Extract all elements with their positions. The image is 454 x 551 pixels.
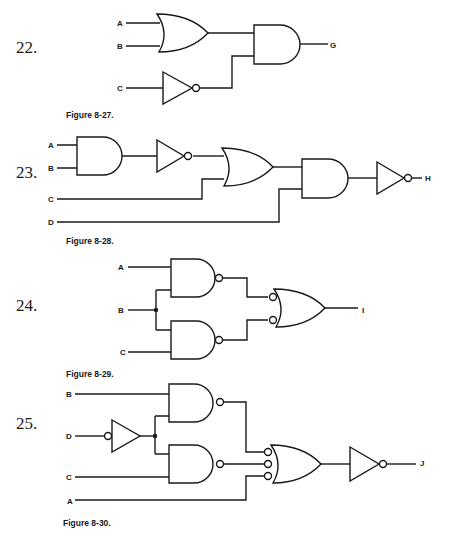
junction-dot-icon (153, 434, 157, 438)
problem-number: 23. (16, 163, 37, 182)
circuit-25: 25. B D C A J Figure 8-30. (16, 384, 424, 528)
circuit-22: 22. A B C G Figure 8-27. (16, 14, 336, 120)
inversion-bubble-icon (270, 294, 277, 301)
wire (126, 23, 160, 46)
or-gate-icon (157, 14, 208, 52)
inversion-bubble-icon (216, 337, 223, 344)
output-label-j: J (420, 459, 424, 468)
circuit-24: 24. A B C I Figure 8-29. (16, 259, 364, 379)
input-label-c: C (48, 195, 54, 204)
input-label-d: D (66, 432, 72, 441)
input-label-b: B (118, 306, 124, 315)
inversion-bubble-icon (265, 461, 272, 468)
input-label-b: B (117, 42, 123, 51)
output-label-g: G (330, 41, 336, 50)
input-label-a: A (117, 19, 123, 28)
and-gate-icon (254, 25, 300, 64)
input-label-c: C (66, 473, 72, 482)
input-label-d: D (48, 218, 54, 227)
wire (57, 179, 224, 199)
circuit-23: 23. A B C D H Figure 8-28. (16, 137, 431, 246)
output-label-i: I (362, 306, 364, 315)
figure-caption: Figure 8-28. (66, 236, 114, 246)
wire (224, 402, 264, 452)
inversion-bubble-icon (265, 449, 272, 456)
figure-caption: Figure 8-27. (66, 110, 114, 120)
buffer-gate-icon (112, 420, 140, 452)
problem-number: 25. (16, 414, 37, 433)
inversion-bubble-icon (270, 317, 277, 324)
problem-number: 24. (16, 296, 37, 315)
wire (223, 320, 268, 340)
input-label-b: B (48, 164, 54, 173)
input-label-a: A (118, 263, 124, 272)
wire (57, 189, 302, 222)
and-gate-icon (302, 159, 348, 198)
nand-gate-icon (171, 321, 215, 359)
wire (57, 145, 77, 168)
wire (223, 278, 268, 297)
input-label-b: B (66, 390, 72, 399)
inversion-bubble-icon (217, 461, 224, 468)
problem-number: 22. (16, 38, 37, 57)
not-gate-icon (163, 72, 192, 104)
output-label-h: H (425, 174, 431, 183)
nand-gate-icon (171, 259, 215, 297)
inversion-bubble-icon (193, 85, 200, 92)
nand-gate-icon (169, 384, 213, 422)
input-label-c: C (120, 348, 126, 357)
figure-caption: Figure 8-30. (63, 518, 111, 528)
input-label-a: A (48, 141, 54, 150)
inversion-bubble-icon (105, 433, 112, 440)
wire (156, 290, 171, 330)
logic-circuit-worksheet: 22. A B C G Figure 8-27. 23. A B C D H (0, 0, 454, 551)
inversion-bubble-icon (185, 153, 192, 160)
figure-caption: Figure 8-29. (66, 369, 114, 379)
not-gate-icon (157, 140, 184, 172)
input-label-a: A (67, 497, 73, 506)
or-gate-icon (274, 289, 325, 327)
inversion-bubble-icon (265, 473, 272, 480)
wire (155, 416, 169, 454)
inversion-bubble-icon (216, 275, 223, 282)
and-gate-icon (77, 137, 122, 175)
inversion-bubble-icon (405, 175, 412, 182)
inversion-bubble-icon (380, 461, 387, 468)
or-gate-icon (271, 445, 321, 483)
not-gate-icon (377, 162, 404, 194)
not-gate-icon (350, 447, 379, 481)
or-gate-icon (222, 148, 273, 186)
inversion-bubble-icon (217, 399, 224, 406)
nand-gate-icon (169, 445, 213, 483)
input-label-c: C (117, 84, 123, 93)
junction-dot-icon (154, 308, 158, 312)
wire (200, 56, 254, 88)
